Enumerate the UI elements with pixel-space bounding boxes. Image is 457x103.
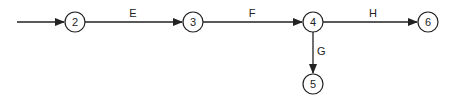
network-diagram: E F H G 2 3 4 5 6 [0,0,457,103]
svg-text:3: 3 [190,16,196,28]
node-2: 2 [65,12,85,32]
node-5: 5 [303,74,323,94]
edge-label-H: H [369,7,377,19]
edge-E: E [85,7,182,22]
edge-F: F [203,7,302,22]
svg-text:6: 6 [425,16,431,28]
node-3: 3 [183,12,203,32]
edge-label-E: E [129,7,136,19]
node-4: 4 [303,12,323,32]
node-6: 6 [418,12,438,32]
edge-label-G: G [317,45,326,57]
edge-G: G [313,32,326,73]
edge-label-F: F [249,7,256,19]
svg-text:4: 4 [310,16,316,28]
svg-text:5: 5 [310,78,316,90]
edge-H: H [323,7,417,22]
svg-text:2: 2 [72,16,78,28]
